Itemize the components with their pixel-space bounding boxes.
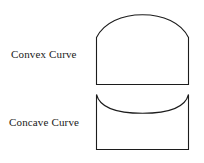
curves-illustration bbox=[0, 0, 204, 163]
diagram-canvas: Convex Curve Concave Curve bbox=[0, 0, 204, 163]
convex-curve-shape bbox=[97, 15, 189, 85]
concave-curve-shape bbox=[97, 95, 189, 150]
